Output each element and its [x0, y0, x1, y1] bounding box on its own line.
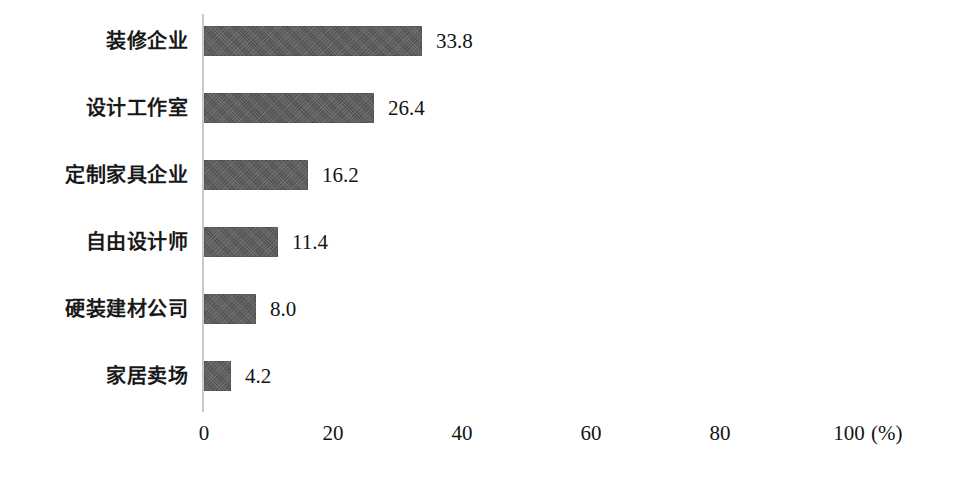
bar: [204, 93, 374, 123]
x-tick-label: 60: [581, 418, 602, 448]
y-axis-line: [202, 14, 204, 412]
bar-value-label: 33.8: [436, 24, 473, 58]
bar-fill: [204, 227, 278, 257]
x-tick-label: 0: [199, 418, 210, 448]
category-label: 设计工作室: [0, 91, 188, 125]
category-label: 装修企业: [0, 24, 188, 58]
bar: [204, 361, 231, 391]
bar-fill: [204, 294, 256, 324]
bar-row: 自由设计师11.4: [0, 225, 978, 259]
x-tick-label: 20: [323, 418, 344, 448]
bar-fill: [204, 160, 308, 190]
x-tick-label: 80: [710, 418, 731, 448]
bar: [204, 160, 308, 190]
bar: [204, 294, 256, 324]
x-axis: 020406080100 (%): [0, 418, 978, 450]
x-axis-unit-label: (%): [871, 418, 902, 448]
category-label: 硬装建材公司: [0, 292, 188, 326]
bar-row: 家居卖场4.2: [0, 359, 978, 393]
bar-value-label: 26.4: [388, 91, 425, 125]
category-label: 自由设计师: [0, 225, 188, 259]
bar-fill: [204, 361, 231, 391]
bar-row: 设计工作室26.4: [0, 91, 978, 125]
x-tick-label: 40: [452, 418, 473, 448]
bar-value-label: 16.2: [322, 158, 359, 192]
bar-fill: [204, 26, 422, 56]
bar: [204, 227, 278, 257]
bar-row: 硬装建材公司8.0: [0, 292, 978, 326]
bar-value-label: 4.2: [245, 359, 271, 393]
bar-fill: [204, 93, 374, 123]
category-label: 家居卖场: [0, 359, 188, 393]
bar-row: 装修企业33.8: [0, 24, 978, 58]
bar-chart: 装修企业33.8设计工作室26.4定制家具企业16.2自由设计师11.4硬装建材…: [0, 0, 978, 497]
bar: [204, 26, 422, 56]
plot-area: 装修企业33.8设计工作室26.4定制家具企业16.2自由设计师11.4硬装建材…: [0, 0, 978, 497]
bar-row: 定制家具企业16.2: [0, 158, 978, 192]
category-label: 定制家具企业: [0, 158, 188, 192]
bar-value-label: 8.0: [270, 292, 296, 326]
bar-value-label: 11.4: [292, 225, 328, 259]
x-tick-label: 100: [833, 418, 865, 448]
